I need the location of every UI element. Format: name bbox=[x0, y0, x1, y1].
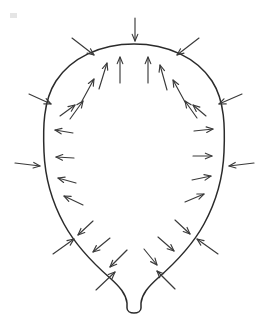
outward-pressure-arrow bbox=[185, 194, 204, 202]
arrow-shaft bbox=[78, 221, 93, 235]
inward-pressure-arrow bbox=[177, 38, 199, 55]
outward-pressure-arrow bbox=[99, 63, 108, 89]
outward-pressure-arrow bbox=[64, 196, 83, 205]
arrow-shaft bbox=[110, 250, 127, 267]
outward-pressure-arrow bbox=[82, 79, 94, 101]
arrow-shaft bbox=[177, 38, 199, 55]
outward-pressure-arrow bbox=[78, 221, 93, 235]
arrow-shaft bbox=[175, 220, 190, 234]
outward-pressure-arrow bbox=[93, 238, 110, 252]
outward-pressure-arrow bbox=[175, 220, 190, 234]
outward-pressure-arrow bbox=[56, 155, 74, 161]
inward-pressure-arrow bbox=[197, 239, 218, 254]
outward-pressure-arrow bbox=[145, 57, 151, 83]
outward-pressure-arrow bbox=[193, 153, 212, 159]
outward-pressure-arrow bbox=[58, 177, 76, 183]
arrow-shaft bbox=[219, 94, 242, 104]
outward-pressure-arrow bbox=[55, 128, 73, 134]
arrow-shaft bbox=[93, 238, 110, 252]
inward-pressure-arrow bbox=[132, 18, 138, 41]
outward-pressure-arrow bbox=[110, 250, 127, 267]
inward-pressure-arrow bbox=[219, 94, 242, 104]
inward-pressure-arrow-group bbox=[15, 18, 254, 290]
arrow-shaft bbox=[64, 196, 83, 205]
outward-pressure-arrow bbox=[158, 237, 174, 251]
outward-pressure-arrow bbox=[173, 80, 185, 102]
inward-pressure-arrow bbox=[229, 162, 254, 168]
outward-pressure-arrow bbox=[144, 249, 157, 265]
arrow-shaft bbox=[157, 271, 175, 289]
inward-pressure-arrow bbox=[72, 38, 94, 55]
outward-pressure-arrow bbox=[117, 57, 123, 83]
arrow-shaft bbox=[53, 239, 74, 254]
outward-pressure-arrow bbox=[192, 175, 211, 180]
balloon-pressure-diagram: Balloon with inward and outward pressure… bbox=[0, 0, 268, 324]
diagram-canvas: Balloon with inward and outward pressure… bbox=[0, 0, 268, 324]
arrow-shaft bbox=[197, 239, 218, 254]
inward-pressure-arrow bbox=[15, 162, 40, 168]
arrow-shaft bbox=[144, 249, 157, 265]
arrow-shaft bbox=[185, 194, 204, 202]
outward-pressure-arrow bbox=[194, 127, 213, 133]
arrow-shaft bbox=[158, 237, 174, 251]
scan-artifact-speck bbox=[10, 13, 17, 18]
outward-pressure-arrow bbox=[159, 65, 167, 90]
outward-pressure-arrow-group bbox=[55, 57, 213, 267]
arrow-shaft bbox=[173, 80, 185, 102]
inward-pressure-arrow bbox=[53, 239, 74, 254]
inward-pressure-arrow bbox=[157, 271, 175, 289]
arrow-shaft bbox=[72, 38, 94, 55]
arrow-shaft bbox=[82, 79, 94, 101]
